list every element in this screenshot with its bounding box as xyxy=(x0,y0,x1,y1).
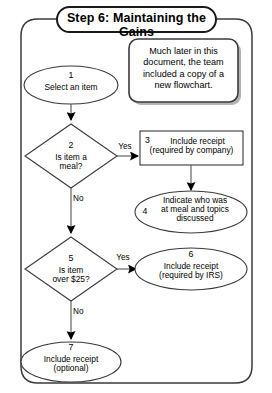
comment-box xyxy=(129,39,238,102)
node-7-shape xyxy=(21,342,121,382)
node-2-shape xyxy=(25,124,117,188)
node-3-shape xyxy=(140,131,243,165)
flowchart-canvas xyxy=(0,0,272,393)
node-6-shape xyxy=(135,248,247,290)
flowchart-page: Step 6: Maintaining the Gains Much later… xyxy=(0,0,272,393)
node-1-shape xyxy=(24,66,118,104)
node-4-shape xyxy=(135,191,247,233)
node-5-shape xyxy=(25,237,117,301)
title-badge xyxy=(57,7,216,32)
